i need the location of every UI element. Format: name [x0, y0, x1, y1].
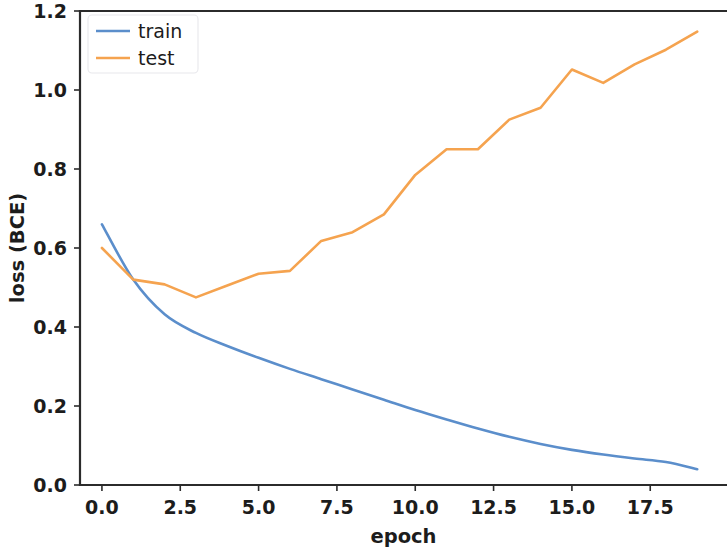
legend-label-train: train	[138, 20, 182, 42]
y-tick-label: 0.8	[33, 158, 67, 180]
x-tick-label: 10.0	[392, 496, 439, 518]
y-tick-label: 0.2	[33, 395, 67, 417]
y-axis-ticks: 0.00.20.40.60.81.01.2	[33, 0, 80, 496]
x-axis-ticks: 0.02.55.07.510.012.515.017.5	[85, 485, 674, 518]
x-tick-label: 7.5	[320, 496, 354, 518]
y-tick-label: 0.6	[33, 237, 67, 259]
series-line-train	[102, 224, 697, 469]
legend-label-test: test	[138, 47, 175, 69]
y-tick-label: 1.2	[33, 0, 67, 22]
figure-canvas: 0.00.20.40.60.81.01.2 0.02.55.07.510.012…	[0, 0, 727, 551]
chart-legend: traintest	[88, 15, 198, 73]
x-tick-label: 15.0	[548, 496, 595, 518]
x-tick-label: 12.5	[470, 496, 517, 518]
series-group	[102, 32, 697, 470]
line-chart: 0.00.20.40.60.81.01.2 0.02.55.07.510.012…	[0, 0, 727, 551]
x-tick-label: 5.0	[242, 496, 276, 518]
x-axis-label: epoch	[370, 525, 436, 548]
x-tick-label: 17.5	[627, 496, 674, 518]
x-tick-label: 2.5	[163, 496, 197, 518]
y-tick-label: 1.0	[33, 79, 67, 101]
axes-spines	[80, 11, 727, 485]
y-tick-label: 0.4	[33, 316, 67, 338]
y-tick-label: 0.0	[33, 474, 67, 496]
x-tick-label: 0.0	[85, 496, 119, 518]
y-axis-label: loss (BCE)	[6, 193, 29, 303]
